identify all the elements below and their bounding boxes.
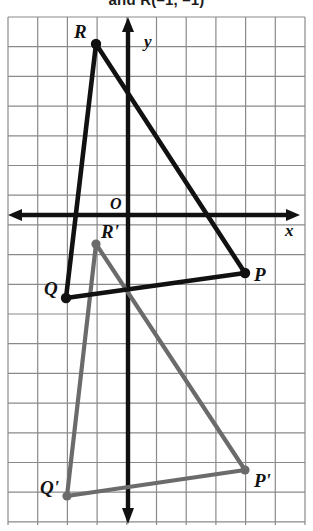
x-axis [8,209,300,221]
vertex-label-R-prime: R' [100,221,119,242]
coordinate-plane: y x O R Q P R' Q' P' [0,0,313,531]
vertex-point-R [91,39,101,49]
x-axis-label: x [284,221,294,240]
triangle-preimage-PQR [61,39,250,303]
vertex-label-R: R [73,21,87,42]
vertex-point-Q-prime [62,491,71,500]
vertex-point-R-prime [91,239,100,248]
figure-root: and R(–1, –1) [0,0,313,531]
vertex-label-Q-prime: Q' [40,477,59,498]
x-axis-arrow-left [8,209,22,221]
y-axis-arrow-up [122,17,134,32]
origin-label: O [110,195,122,212]
vertex-label-P: P [253,264,266,285]
x-axis-arrow-right [286,209,300,221]
vertex-point-P [240,268,250,278]
vertex-point-P-prime [240,465,249,474]
vertex-label-P-prime: P' [253,470,271,491]
y-axis-label: y [142,32,152,51]
vertex-label-Q: Q [44,278,58,299]
vertex-point-Q [61,293,71,303]
